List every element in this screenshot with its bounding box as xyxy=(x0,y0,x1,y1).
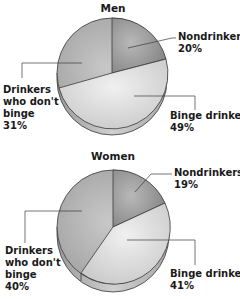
men-title: Men xyxy=(83,2,143,14)
women-label-nonbinge: Drinkers who don't binge 40% xyxy=(5,245,61,293)
men-label-binge: Binge drinkers 49% xyxy=(170,110,240,134)
men-label-nonbinge: Drinkers who don't binge 31% xyxy=(3,84,59,132)
women-label-binge: Binge drinkers 41% xyxy=(170,268,240,292)
women-label-nondrinkers: Nondrinkers 19% xyxy=(174,167,240,191)
men-label-nondrinkers: Nondrinkers 20% xyxy=(178,31,240,55)
women-title: Women xyxy=(83,150,143,162)
